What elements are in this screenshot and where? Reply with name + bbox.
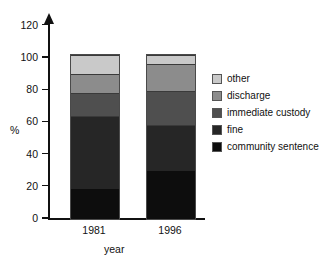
- y-axis-line: [48, 22, 50, 219]
- x-tick-label-1981: 1981: [64, 224, 124, 236]
- y-tick-120: [42, 24, 48, 25]
- y-tick-20: [42, 185, 48, 186]
- legend-swatch-fine: [212, 125, 222, 135]
- legend-label: discharge: [227, 91, 270, 101]
- bar-segment-1981-discharge: [71, 74, 119, 93]
- legend-item-other[interactable]: other: [212, 71, 320, 87]
- chart-legend: otherdischargeimmediate custodyfinecommu…: [212, 71, 320, 156]
- y-tick-label-wrap-80: 80: [8, 84, 38, 94]
- y-tick-label-wrap-100: 100: [8, 52, 38, 62]
- y-tick-80: [42, 89, 48, 90]
- bar-1981: [70, 54, 120, 220]
- y-tick-label-100: 100: [12, 52, 38, 62]
- legend-label: other: [227, 74, 250, 84]
- y-tick-60: [42, 121, 48, 122]
- bar-segment-1996-community-sentence: [147, 171, 195, 219]
- y-tick-100: [42, 56, 48, 57]
- legend-label: community sentence: [227, 142, 319, 152]
- legend-item-discharge[interactable]: discharge: [212, 88, 320, 104]
- y-tick-40: [42, 153, 48, 154]
- y-tick-label-20: 20: [12, 181, 38, 191]
- y-tick-label-wrap-120: 120: [8, 20, 38, 30]
- legend-label: fine: [227, 125, 243, 135]
- legend-swatch-immediate-custody: [212, 108, 222, 118]
- x-tick-label-1996: 1996: [140, 224, 200, 236]
- y-tick-label-wrap-40: 40: [8, 149, 38, 159]
- y-tick-label-wrap-0: 0: [8, 213, 38, 223]
- bar-segment-1981-fine: [71, 116, 119, 189]
- stacked-bar-chart: 020406080100120 % year 19811996 otherdis…: [0, 0, 323, 262]
- bar-segment-1996-immediate-custody: [147, 91, 195, 125]
- y-tick-label-0: 0: [12, 213, 38, 223]
- bar-segment-1996-discharge: [147, 64, 195, 91]
- y-tick-label-80: 80: [12, 84, 38, 94]
- y-tick-label-wrap-20: 20: [8, 181, 38, 191]
- y-tick-label-120: 120: [12, 20, 38, 30]
- y-tick-0: [42, 217, 48, 218]
- bar-segment-1981-immediate-custody: [71, 93, 119, 116]
- bar-1996: [146, 54, 196, 220]
- legend-item-community-sentence[interactable]: community sentence: [212, 139, 320, 155]
- legend-item-immediate-custody[interactable]: immediate custody: [212, 105, 320, 121]
- legend-item-fine[interactable]: fine: [212, 122, 320, 138]
- legend-swatch-community-sentence: [212, 142, 222, 152]
- legend-swatch-discharge: [212, 91, 222, 101]
- y-tick-label-40: 40: [12, 149, 38, 159]
- legend-swatch-other: [212, 74, 222, 84]
- x-axis-title: year: [104, 243, 124, 255]
- bar-segment-1996-fine: [147, 125, 195, 171]
- y-axis-title: %: [10, 124, 19, 136]
- legend-label: immediate custody: [227, 108, 310, 118]
- bar-segment-1981-other: [71, 55, 119, 74]
- bar-segment-1981-community-sentence: [71, 189, 119, 219]
- bar-segment-1996-other: [147, 55, 195, 64]
